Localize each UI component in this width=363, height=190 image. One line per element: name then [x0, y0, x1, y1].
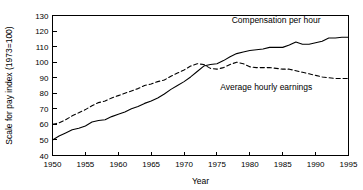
- y-tick-label: 100: [35, 58, 49, 67]
- y-tick-label: 80: [40, 89, 49, 98]
- x-tick-label: 1995: [340, 160, 358, 169]
- x-tick-label: 1980: [241, 160, 259, 169]
- x-tick-label: 1970: [175, 160, 193, 169]
- x-axis-ticks: 1950195519601965197019751980198519901995: [44, 152, 358, 169]
- x-tick-label: 1960: [109, 160, 127, 169]
- line-chart-svg: 405060708090100110120130 195019551960196…: [0, 0, 363, 190]
- y-axis-title: Scale for pay index (1973=100): [4, 26, 14, 145]
- x-axis-title: Year: [192, 176, 209, 186]
- x-tick-label: 1990: [307, 160, 325, 169]
- annotation-average-hourly-earnings: Average hourly earnings: [220, 82, 312, 92]
- y-tick-label: 90: [40, 74, 49, 83]
- y-tick-label: 70: [40, 105, 49, 114]
- series-average-hourly-earnings: [53, 62, 349, 124]
- y-axis-ticks: 405060708090100110120130: [35, 12, 56, 161]
- y-tick-label: 110: [36, 43, 49, 52]
- x-tick-label: 1955: [76, 160, 94, 169]
- y-tick-label: 60: [40, 120, 49, 129]
- y-tick-label: 120: [35, 27, 49, 36]
- annotation-compensation-per-hour: Compensation per hour: [232, 15, 321, 25]
- x-tick-label: 1950: [44, 160, 62, 169]
- y-tick-label: 50: [40, 136, 49, 145]
- x-tick-label: 1975: [208, 160, 226, 169]
- chart-figure: 405060708090100110120130 195019551960196…: [0, 0, 363, 190]
- x-tick-label: 1965: [142, 160, 160, 169]
- x-tick-label: 1985: [274, 160, 292, 169]
- y-tick-label: 130: [35, 12, 49, 21]
